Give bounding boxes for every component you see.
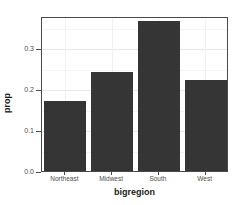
x-axis-tick-label: South — [149, 175, 166, 182]
gridline-major — [42, 49, 227, 50]
x-axis-tick-labels: NortheastMidwestSouthWest — [41, 175, 228, 187]
y-axis-title: prop — [0, 0, 14, 205]
plot-panel — [41, 17, 228, 172]
bar — [44, 101, 86, 171]
x-axis-title: bigregion — [41, 187, 228, 197]
y-axis-tick-label: 0.2 — [24, 86, 34, 94]
y-axis-tick-label: 0.3 — [24, 45, 34, 53]
gridline-minor — [42, 29, 227, 30]
y-axis-tick-label: 0.1 — [24, 127, 34, 135]
y-axis-tick-label: 0.0 — [24, 168, 34, 176]
bar — [185, 80, 227, 171]
bar-chart-figure: prop 0.00.10.20.3 NortheastMidwestSouthW… — [0, 0, 251, 205]
bar — [91, 72, 133, 171]
bar — [138, 21, 180, 171]
y-axis-title-text: prop — [2, 93, 12, 113]
y-axis-tick-mark — [36, 172, 41, 173]
y-axis-tick-labels: 0.00.10.20.3 — [14, 0, 34, 205]
x-axis-tick-label: Northeast — [50, 175, 78, 182]
x-axis-tick-label: Midwest — [99, 175, 123, 182]
gridline-minor — [42, 70, 227, 71]
x-axis-tick-label: West — [197, 175, 212, 182]
